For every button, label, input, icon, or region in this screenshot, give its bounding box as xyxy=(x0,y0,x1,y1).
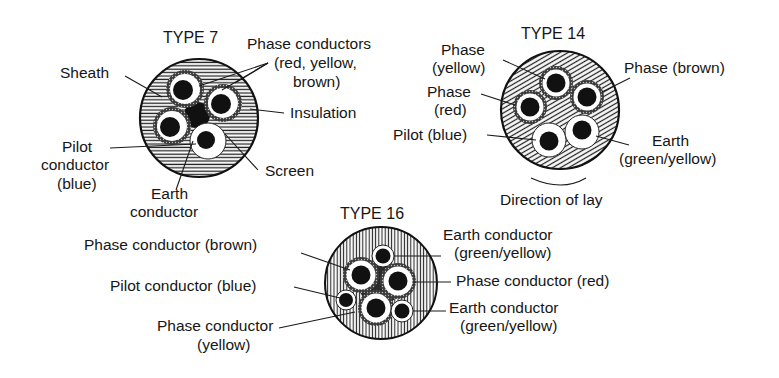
type16-title: TYPE 16 xyxy=(340,205,404,222)
type14-label-phase-brown: Phase (brown) xyxy=(624,59,725,76)
type7-label-sheath: Sheath xyxy=(60,64,109,81)
type14-label-phase-red-line1: Phase xyxy=(427,83,471,100)
type14-phase-brown xyxy=(570,80,604,114)
type16-label-phase-yellow-line1: Phase conductor xyxy=(157,317,273,334)
type7-title: TYPE 7 xyxy=(163,29,218,46)
type16-label-phase-yellow-line2: (yellow) xyxy=(197,336,250,353)
type14-label-phase-yellow-line1: Phase xyxy=(441,41,485,58)
type7-cable: TYPE 7 Sheath xyxy=(41,29,371,220)
type14-phase-red xyxy=(513,90,547,124)
type7-label-phase-line1: Phase conductors xyxy=(247,35,371,52)
type14-label-earth-line2: (green/yellow) xyxy=(619,150,716,167)
type14-label-phase-red-line2: (red) xyxy=(434,101,467,118)
type16-earth-top xyxy=(372,245,394,267)
type16-earth-bottom xyxy=(391,300,413,322)
type16-pilot xyxy=(336,290,356,310)
type16-label-earth-bottom-line1: Earth conductor xyxy=(449,299,558,316)
type7-phase-left xyxy=(153,107,191,145)
type14-label-phase-yellow-line2: (yellow) xyxy=(432,59,485,76)
type7-label-screen: Screen xyxy=(265,162,314,179)
type14-direction-arc xyxy=(531,178,586,185)
cable-diagram: TYPE 7 Sheath xyxy=(0,0,779,378)
type14-pilot xyxy=(532,123,566,157)
type14-phase-yellow xyxy=(539,66,573,100)
type14-label-pilot: Pilot (blue) xyxy=(393,126,467,143)
type16-label-earth-bottom-line2: (green/yellow) xyxy=(460,317,557,334)
type7-label-earth-line2: conductor xyxy=(130,203,198,220)
type16-label-pilot: Pilot conductor (blue) xyxy=(110,277,256,294)
type7-phase-top-left xyxy=(166,70,204,108)
type14-earth xyxy=(565,115,599,149)
type14-title: TYPE 14 xyxy=(521,25,585,42)
type16-phase-yellow xyxy=(358,290,394,326)
type16-label-phase-brown: Phase conductor (brown) xyxy=(84,236,257,253)
type7-label-phase-line2: (red, yellow, xyxy=(274,54,357,71)
type7-label-pilot-line1: Pilot xyxy=(62,138,93,155)
type7-label-pilot-line2: conductor xyxy=(41,156,109,173)
type16-label-phase-red: Phase conductor (red) xyxy=(456,272,609,289)
type16-cable: TYPE 16 xyxy=(84,205,609,353)
type16-phase-brown xyxy=(343,257,379,293)
type14-cable: TYPE 14 P xyxy=(393,25,725,208)
type7-label-earth-line1: Earth xyxy=(151,185,188,202)
type7-label-insulation: Insulation xyxy=(290,104,356,121)
type14-label-earth-line1: Earth xyxy=(652,132,689,149)
type7-pilot-conductor xyxy=(190,123,226,159)
type7-label-phase-line3: brown) xyxy=(293,73,340,90)
type14-label-direction: Direction of lay xyxy=(500,191,603,208)
type7-label-pilot-line3: (blue) xyxy=(57,175,97,192)
type16-label-earth-top-line1: Earth conductor xyxy=(443,226,552,243)
type16-label-earth-top-line2: (green/yellow) xyxy=(454,244,551,261)
